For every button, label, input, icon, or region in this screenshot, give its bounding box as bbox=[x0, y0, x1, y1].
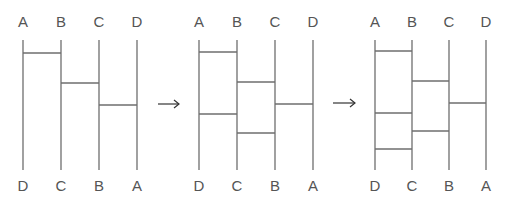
ladder-panel-2: ADBCCBDA bbox=[194, 13, 319, 194]
top-label: A bbox=[370, 13, 380, 30]
top-label: A bbox=[18, 13, 28, 30]
bottom-label: B bbox=[444, 177, 454, 194]
top-label: D bbox=[132, 13, 143, 30]
bottom-label: D bbox=[18, 177, 29, 194]
amidakuji-diagram: ADBCCBDAADBCCBDAADBCCBDA bbox=[0, 0, 513, 201]
bottom-label: C bbox=[232, 177, 243, 194]
bottom-label: B bbox=[94, 177, 104, 194]
bottom-label: A bbox=[308, 177, 318, 194]
bottom-label: A bbox=[481, 177, 491, 194]
right-arrow-icon bbox=[158, 100, 179, 108]
ladder-panel-1: ADBCCBDA bbox=[18, 13, 143, 194]
top-label: C bbox=[270, 13, 281, 30]
bottom-label: D bbox=[194, 177, 205, 194]
bottom-label: C bbox=[407, 177, 418, 194]
top-label: B bbox=[232, 13, 242, 30]
top-label: C bbox=[444, 13, 455, 30]
bottom-label: C bbox=[56, 177, 67, 194]
top-label: D bbox=[308, 13, 319, 30]
bottom-label: A bbox=[132, 177, 142, 194]
top-label: A bbox=[194, 13, 204, 30]
top-label: B bbox=[407, 13, 417, 30]
top-label: D bbox=[481, 13, 492, 30]
bottom-label: B bbox=[270, 177, 280, 194]
top-label: C bbox=[94, 13, 105, 30]
ladder-panel-3: ADBCCBDA bbox=[370, 13, 492, 194]
right-arrow-icon bbox=[333, 99, 355, 107]
top-label: B bbox=[56, 13, 66, 30]
bottom-label: D bbox=[370, 177, 381, 194]
